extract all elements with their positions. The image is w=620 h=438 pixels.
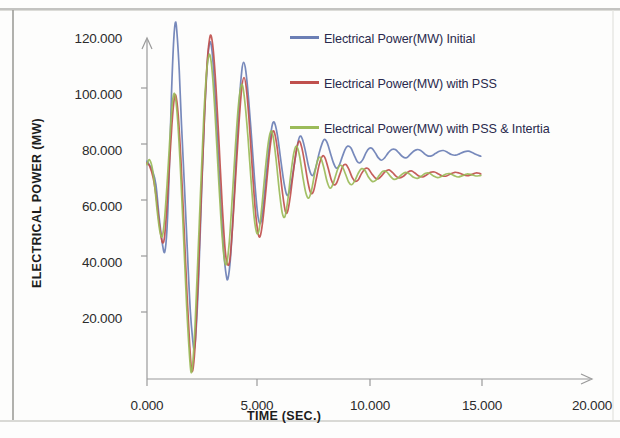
legend-item-initial[interactable]: Electrical Power(MW) Initial [290,29,475,47]
y-axis-title: ELECTRICAL POWER (MW) [30,103,44,303]
y-tick-label: 120.000 [30,31,122,46]
x-tick-label: 15.000 [452,398,512,413]
legend-label-pss-inertia: Electrical Power(MW) with PSS & Intertia [324,122,550,136]
chart-figure: 120.000 100.000 80.000 60.000 40.000 20.… [0,0,620,438]
x-tick-label: 10.000 [340,398,400,413]
legend-swatch-initial [290,36,319,39]
plot-canvas [0,0,620,438]
legend-swatch-pss-inertia [290,126,319,129]
y-tick-label: 100.000 [30,87,122,102]
y-tick-label: 20.000 [30,311,122,326]
legend-swatch-pss [290,81,319,84]
x-tick-label: 0.000 [117,398,177,413]
legend-label-initial: Electrical Power(MW) Initial [324,32,475,46]
x-axis-title: TIME (SEC.) [247,409,321,423]
legend-item-pss[interactable]: Electrical Power(MW) with PSS [290,74,497,92]
x-tick-label: 20.000 [562,398,620,413]
legend-label-pss: Electrical Power(MW) with PSS [324,77,497,91]
legend-item-pss-inertia[interactable]: Electrical Power(MW) with PSS & Intertia [290,119,550,137]
